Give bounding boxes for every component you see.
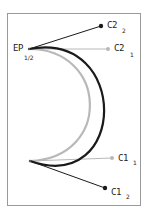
- c1-1-label-sub: 1: [133, 160, 137, 166]
- c2-1-label-sub: 1: [130, 52, 134, 58]
- c2-2-label-sub: 2: [122, 28, 126, 34]
- bezier-curve-black: [29, 47, 104, 165]
- bezier-diagram: [0, 0, 151, 216]
- endpoint-label: EP: [13, 44, 23, 53]
- c2-2-label: C2: [107, 21, 117, 30]
- control-point-c2-2[interactable]: [99, 24, 103, 28]
- endpoint-top[interactable]: [28, 48, 30, 50]
- endpoint-label-sub: 1/2: [24, 55, 34, 61]
- control-point-c2-1[interactable]: [106, 47, 110, 51]
- control-point-c1-1[interactable]: [110, 156, 114, 160]
- handle-line-c2-2: [29, 26, 101, 49]
- endpoint-bottom[interactable]: [29, 160, 31, 162]
- c1-2-label-sub: 2: [126, 194, 130, 200]
- c1-2-label: C1: [111, 188, 121, 197]
- c2-1-label: C2: [114, 44, 124, 53]
- c1-1-label: C1: [118, 154, 128, 163]
- control-point-c1-2[interactable]: [103, 186, 107, 190]
- bezier-curve-gray: [29, 49, 90, 161]
